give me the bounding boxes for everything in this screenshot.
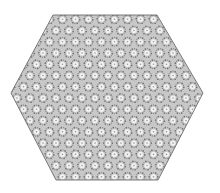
tiling-pattern — [0, 3, 217, 193]
hexagon-tiling-figure — [0, 0, 220, 193]
hexagon-patch — [0, 3, 217, 193]
